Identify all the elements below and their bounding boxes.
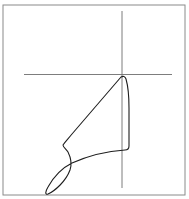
figure-background bbox=[0, 0, 189, 199]
figure-canvas bbox=[0, 0, 189, 199]
curve-diagram bbox=[0, 0, 189, 199]
